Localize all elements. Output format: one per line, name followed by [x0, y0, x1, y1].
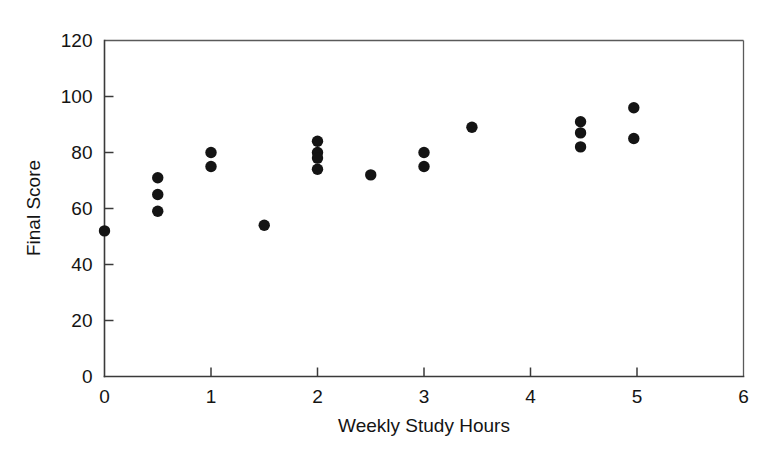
y-tick-label: 120: [61, 30, 93, 51]
data-point: [575, 116, 586, 127]
data-point: [99, 225, 110, 236]
data-point: [365, 169, 376, 180]
data-point: [628, 133, 639, 144]
scatter-plot-canvas: 020406080100120 0123456 Weekly Study Hou…: [0, 0, 772, 470]
x-tick-label: 0: [99, 386, 110, 407]
y-tick-label: 0: [82, 366, 93, 387]
data-point: [628, 102, 639, 113]
data-point: [259, 220, 270, 231]
y-axis-title: Final Score: [23, 160, 44, 256]
data-point: [312, 152, 323, 163]
x-tick-label: 2: [312, 386, 323, 407]
x-axis-title: Weekly Study Hours: [338, 415, 510, 436]
data-point: [575, 127, 586, 138]
scatter-plot-figure: 020406080100120 0123456 Weekly Study Hou…: [0, 0, 772, 470]
data-point: [152, 206, 163, 217]
x-tick-label: 3: [419, 386, 430, 407]
data-point: [418, 147, 429, 158]
plot-background: [0, 0, 772, 470]
x-tick-label: 5: [632, 386, 643, 407]
x-tick-label: 1: [206, 386, 217, 407]
data-point: [205, 147, 216, 158]
x-tick-label: 4: [525, 386, 536, 407]
data-point: [466, 122, 477, 133]
data-point: [312, 136, 323, 147]
y-tick-label: 100: [61, 86, 93, 107]
data-point: [152, 189, 163, 200]
y-tick-label: 20: [71, 310, 92, 331]
data-point: [418, 161, 429, 172]
x-tick-label: 6: [738, 386, 749, 407]
data-point: [575, 141, 586, 152]
data-point: [152, 172, 163, 183]
y-tick-label: 60: [71, 198, 92, 219]
y-tick-label: 80: [71, 142, 92, 163]
y-tick-label: 40: [71, 254, 92, 275]
data-point: [205, 161, 216, 172]
data-point: [312, 164, 323, 175]
